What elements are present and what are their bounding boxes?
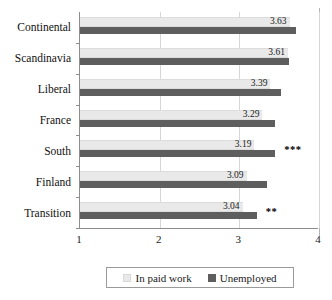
bar-in-paid-work xyxy=(80,171,247,181)
bar-group: 3.29 xyxy=(80,105,318,136)
bar-unemployed xyxy=(80,120,275,127)
bar-value-label: 3.19 xyxy=(235,138,255,150)
gridline xyxy=(319,12,320,228)
x-tick-label: 2 xyxy=(156,232,162,246)
x-tick-label: 3 xyxy=(236,232,242,246)
bar-value-label: 3.04 xyxy=(223,200,243,212)
bar-value-label: 3.61 xyxy=(268,46,288,58)
bar-unemployed xyxy=(80,89,281,96)
significance-marker: *** xyxy=(284,145,301,155)
category-label: Transition xyxy=(0,197,75,228)
category-label: Continental xyxy=(0,12,75,43)
bar-unemployed xyxy=(80,27,296,34)
bar-group: 3.19*** xyxy=(80,135,318,166)
legend-swatch-icon xyxy=(123,274,131,282)
bar-in-paid-work xyxy=(80,202,243,212)
bar-in-paid-work xyxy=(80,110,262,120)
legend-swatch-icon xyxy=(208,274,216,282)
category-label: Scandinavia xyxy=(0,43,75,74)
x-tick-label: 1 xyxy=(76,232,82,246)
bar-unemployed xyxy=(80,212,257,219)
bar-group: 3.09 xyxy=(80,166,318,197)
legend-item[interactable]: Unemployed xyxy=(208,272,277,284)
bar-group: 3.39 xyxy=(80,74,318,105)
bar-unemployed xyxy=(80,181,267,188)
significance-marker: ** xyxy=(266,207,278,217)
category-label: Finland xyxy=(0,166,75,197)
bar-group: 3.61 xyxy=(80,43,318,74)
category-label: France xyxy=(0,105,75,136)
bar-value-label: 3.63 xyxy=(270,15,290,27)
bar-in-paid-work xyxy=(80,17,290,27)
x-tick-label: 4 xyxy=(315,232,321,246)
bar-unemployed xyxy=(80,150,275,157)
bar-unemployed xyxy=(80,58,289,65)
category-label: Liberal xyxy=(0,74,75,105)
bar-in-paid-work xyxy=(80,140,254,150)
bar-in-paid-work xyxy=(80,79,270,89)
bar-value-label: 3.39 xyxy=(251,77,271,89)
legend-item[interactable]: In paid work xyxy=(123,272,191,284)
x-axis-line xyxy=(79,228,318,229)
chart-legend: In paid workUnemployed xyxy=(106,267,294,288)
bar-group: 3.04** xyxy=(80,197,318,228)
bar-chart: 3.633.613.393.293.19***3.093.04** Contin… xyxy=(0,0,332,300)
legend-label: Unemployed xyxy=(220,272,277,284)
category-label: South xyxy=(0,135,75,166)
bar-in-paid-work xyxy=(80,48,288,58)
bar-group: 3.63 xyxy=(80,12,318,43)
legend-label: In paid work xyxy=(135,272,191,284)
bar-value-label: 3.09 xyxy=(227,169,247,181)
plot-area: 3.633.613.393.293.19***3.093.04** xyxy=(79,12,318,228)
bar-value-label: 3.29 xyxy=(243,108,263,120)
